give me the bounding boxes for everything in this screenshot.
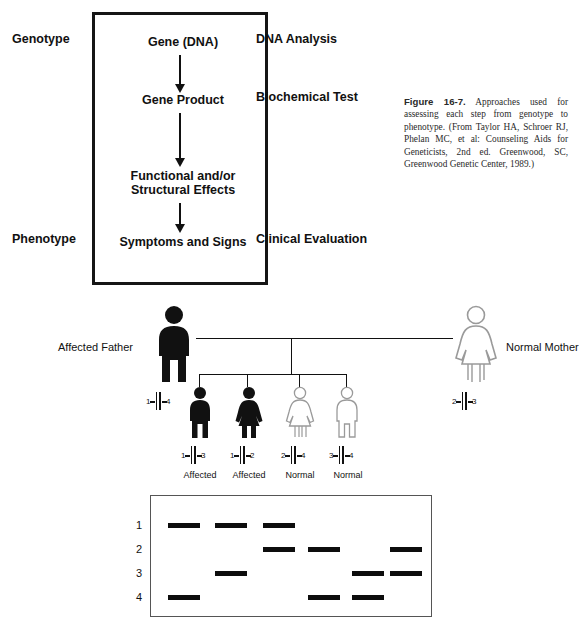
child-1-status: Affected <box>176 470 224 480</box>
flow-node-symptoms-signs: Symptoms and Signs <box>95 235 271 249</box>
gel-row-label-4: 4 <box>126 591 142 603</box>
label-genotype: Genotype <box>12 32 70 46</box>
sib-drop-4 <box>346 374 347 387</box>
flow-node-functional-effects-line2: Structural Effects <box>95 183 271 197</box>
gel-band-father-row1 <box>168 523 200 528</box>
figure-caption-label: Figure 16-7. <box>404 96 466 107</box>
gel-band-child-4-row4 <box>352 595 384 600</box>
mating-line <box>196 338 453 339</box>
flow-node-gene-product: Gene Product <box>95 93 271 107</box>
mother-alleles: 2 3 <box>452 392 476 410</box>
father-alleles: 1 4 <box>146 392 170 410</box>
flow-node-functional-effects-line1: Functional and/or <box>95 169 271 183</box>
gel-row-label-3: 3 <box>126 567 142 579</box>
gel-row-label-2: 2 <box>126 543 142 555</box>
child-figure-4 <box>332 387 362 439</box>
sibship-line <box>199 374 347 375</box>
mother-figure <box>453 306 499 384</box>
genotype-phenotype-flow-box: Gene (DNA) Gene Product Functional and/o… <box>92 12 268 285</box>
child-2-alleles: 1 2 <box>230 446 254 464</box>
gel-band-child-4-row3 <box>352 571 384 576</box>
child-3-status: Normal <box>276 470 324 480</box>
child-figure-1 <box>185 387 215 439</box>
child-2-status: Affected <box>225 470 273 480</box>
child-4-alleles: 3 4 <box>329 446 353 464</box>
father-allele-bars <box>154 392 163 410</box>
gel-row-label-1: 1 <box>126 519 142 531</box>
descent-line <box>291 338 292 374</box>
child-4-status: Normal <box>324 470 372 480</box>
gel-band-child-2-row2 <box>263 547 295 552</box>
gel-band-mother-row2 <box>390 547 422 552</box>
sib-drop-3 <box>299 374 300 387</box>
flow-arrow-3 <box>179 203 181 225</box>
child-4-allele-bars <box>337 446 346 464</box>
flow-node-gene-dna: Gene (DNA) <box>95 35 271 49</box>
child-1-alleles: 1 3 <box>181 446 205 464</box>
figure-caption: Figure 16-7. Approaches used for assessi… <box>404 96 568 170</box>
child-2-allele-bars <box>238 446 247 464</box>
gel-band-father-row4 <box>168 595 200 600</box>
gel-band-child-3-row2 <box>308 547 340 552</box>
sib-drop-1 <box>199 374 200 387</box>
gel-band-child-1-row1 <box>215 523 247 528</box>
mother-allele-bars <box>460 392 469 410</box>
label-phenotype: Phenotype <box>12 232 76 246</box>
gel-band-child-1-row3 <box>215 571 247 576</box>
flow-arrow-1 <box>179 55 181 85</box>
gel-band-child-3-row4 <box>308 595 340 600</box>
father-label: Affected Father <box>58 341 133 353</box>
gel-band-mother-row3 <box>390 571 422 576</box>
child-figure-3 <box>284 387 316 439</box>
child-figure-2 <box>233 387 265 439</box>
gel-band-child-2-row1 <box>263 523 295 528</box>
label-biochemical-test: Biochemical Test <box>256 90 358 104</box>
figure-caption-text: Approaches used for assessing each step … <box>404 97 568 169</box>
father-figure <box>152 306 196 384</box>
child-3-allele-bars <box>289 446 298 464</box>
label-dna-analysis: DNA Analysis <box>256 32 337 46</box>
flow-arrow-2 <box>179 113 181 159</box>
mother-label: Normal Mother <box>506 341 579 353</box>
child-3-alleles: 2 4 <box>281 446 305 464</box>
sib-drop-2 <box>247 374 248 387</box>
label-clinical-evaluation: Clinical Evaluation <box>256 232 367 246</box>
child-1-allele-bars <box>189 446 198 464</box>
